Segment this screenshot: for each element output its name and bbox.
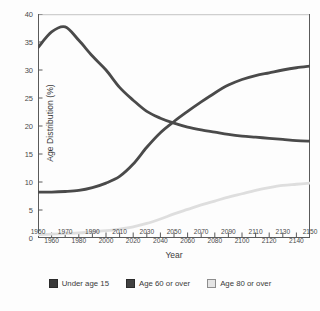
y-tick-label: 5 — [29, 206, 33, 215]
y-tick-label: 30 — [25, 66, 33, 75]
y-axis-title: Age Distribution (%) — [45, 11, 55, 235]
x-tick-label: 2060 — [180, 237, 195, 244]
chart-figure: Age Distribution (%) 0510152025303540 Ye… — [0, 0, 320, 311]
x-tick-label: 2130 — [275, 228, 290, 235]
x-tick-label: 2000 — [99, 237, 114, 244]
x-tick-label: 2150 — [303, 228, 318, 235]
x-tick-label: 2140 — [289, 237, 304, 244]
series-line-age-60-or-over — [38, 66, 310, 192]
y-tick-label: 35 — [25, 38, 33, 47]
legend-label: Under age 15 — [62, 279, 109, 288]
x-tick-label: 2120 — [262, 237, 277, 244]
legend-swatch-icon — [207, 279, 216, 288]
x-tick-label: 1950 — [31, 228, 46, 235]
x-tick-label: 1970 — [58, 228, 73, 235]
x-tick-label: 2100 — [235, 237, 250, 244]
y-tick-label: 15 — [25, 150, 33, 159]
legend-swatch-icon — [49, 279, 58, 288]
x-tick-label: 2110 — [249, 228, 263, 235]
chart-legend: Under age 15Age 60 or overAge 80 or over — [0, 279, 320, 288]
x-tick-label: 2040 — [153, 237, 168, 244]
legend-item[interactable]: Age 80 or over — [207, 279, 271, 288]
plot-area: Age Distribution (%) 0510152025303540 — [38, 14, 310, 238]
legend-swatch-icon — [126, 279, 135, 288]
y-tick-label: 10 — [25, 178, 33, 187]
x-tick-label: 2050 — [167, 228, 182, 235]
x-tick-label: 1980 — [71, 237, 86, 244]
x-tick-label: 2020 — [126, 237, 141, 244]
y-tick-label: 20 — [25, 122, 33, 131]
x-tick-label: 2070 — [194, 228, 209, 235]
x-tick-label: 2010 — [112, 228, 127, 235]
y-tick-label: 25 — [25, 94, 33, 103]
x-tick-label: 2030 — [139, 228, 154, 235]
y-tick-label: 40 — [25, 10, 33, 19]
legend-label: Age 80 or over — [220, 279, 271, 288]
x-axis-title: Year — [38, 250, 310, 260]
legend-label: Age 60 or over — [139, 279, 190, 288]
legend-item[interactable]: Under age 15 — [49, 279, 109, 288]
chart-plot-svg — [38, 14, 310, 238]
x-tick-label: 1990 — [85, 228, 100, 235]
x-tick-label: 2080 — [207, 237, 222, 244]
legend-item[interactable]: Age 60 or over — [126, 279, 190, 288]
x-tick-label: 1960 — [44, 237, 59, 244]
series-line-under-age-15 — [38, 27, 310, 142]
x-tick-label: 2090 — [221, 228, 236, 235]
